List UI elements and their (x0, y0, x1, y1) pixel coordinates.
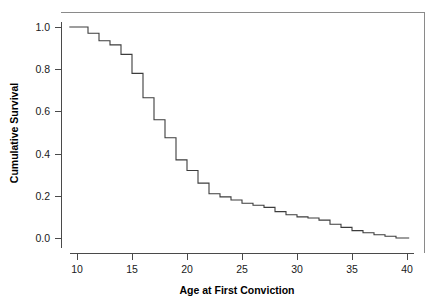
y-tick-label-2: 0.4 (35, 148, 50, 160)
y-tick-label-3: 0.6 (35, 105, 50, 117)
x-axis-title: Age at First Conviction (180, 284, 295, 296)
survival-plot-figure: 1.0 0.8 0.6 0.4 0.2 0.0 10 15 20 25 30 3… (0, 0, 436, 307)
y-tick-label-0: 0.0 (35, 232, 50, 244)
y-axis-title: Cumulative Survival (8, 83, 20, 183)
x-tick-label-3: 25 (236, 263, 248, 275)
x-tick-label-2: 20 (181, 263, 193, 275)
y-tick-label-1: 0.2 (35, 190, 50, 202)
chart-canvas: 1.0 0.8 0.6 0.4 0.2 0.0 10 15 20 25 30 3… (0, 0, 436, 307)
x-tick-label-0: 10 (71, 263, 83, 275)
x-tick-label-6: 40 (401, 263, 413, 275)
x-tick-label-1: 15 (126, 263, 138, 275)
figure-background (0, 0, 436, 307)
x-tick-label-4: 30 (291, 263, 303, 275)
y-tick-label-4: 0.8 (35, 63, 50, 75)
x-tick-label-5: 35 (346, 263, 358, 275)
y-tick-label-5: 1.0 (35, 21, 50, 33)
